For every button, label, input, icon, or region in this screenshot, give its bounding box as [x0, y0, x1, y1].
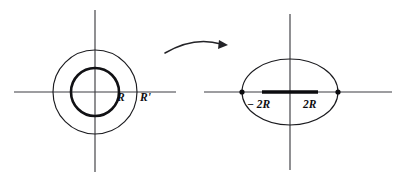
- inner-circle-radius-label: R: [116, 91, 125, 103]
- negative-two-r-label: − 2R: [247, 98, 271, 110]
- left-panel-group: R R': [14, 10, 176, 172]
- right-panel-group: − 2R 2R: [204, 14, 392, 170]
- transform-arrow-shaft: [165, 41, 221, 53]
- figure-container: Mapping of concentric circles to an elli…: [0, 0, 400, 180]
- right-vertex-dot: [335, 89, 340, 94]
- outer-circle-radius-label: R': [139, 91, 151, 103]
- transform-arrow-head: [218, 40, 228, 49]
- left-vertex-dot: [239, 89, 244, 94]
- positive-two-r-label: 2R: [302, 98, 317, 110]
- transform-arrow-group: [165, 40, 228, 53]
- figure-canvas: R R' − 2R 2R: [0, 0, 400, 180]
